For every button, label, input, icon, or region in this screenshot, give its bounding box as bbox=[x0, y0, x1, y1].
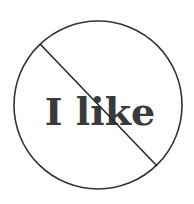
sign-text: I like bbox=[45, 89, 155, 134]
no-sign-graphic: I like bbox=[0, 0, 194, 204]
